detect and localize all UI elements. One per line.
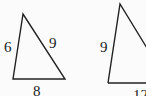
left-triangle-shape xyxy=(13,14,65,79)
left-triangle: 6 9 8 xyxy=(4,14,65,96)
left-triangle-side-right-label: 9 xyxy=(49,35,57,51)
right-triangle-side-bottom-label: 12 xyxy=(133,87,146,96)
left-triangle-side-bottom-label: 8 xyxy=(33,83,41,96)
similar-triangles-diagram: 6 9 8 9 12 xyxy=(0,0,146,96)
right-triangle-side-left-label: 9 xyxy=(100,39,108,55)
right-triangle-shape xyxy=(108,4,146,83)
right-triangle: 9 12 xyxy=(100,4,146,96)
left-triangle-side-left-label: 6 xyxy=(4,39,12,55)
